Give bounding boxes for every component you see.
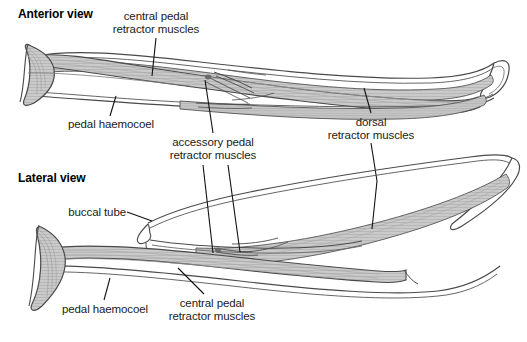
leader-accessory-pedal-to-lateral-b [228, 165, 240, 252]
label-central-pedal-retractor-top-line2: retractor muscles [96, 23, 216, 37]
lateral-view-label: Lateral view [18, 172, 86, 186]
anatomical-figure: Anterior view central pedal retractor mu… [0, 0, 527, 342]
anterior-view-label: Anterior view [18, 8, 93, 22]
label-central-pedal-retractor-bottom-line1: central pedal [156, 297, 268, 311]
leader-accessory-pedal-to-lateral-a [203, 165, 213, 253]
label-accessory-pedal-retractor-line1: accessory pedal [158, 136, 268, 150]
lateral-buccal-tube [137, 224, 150, 244]
leader-pedal-haemocoel-top [110, 96, 116, 116]
lateral-view-drawing [29, 155, 519, 310]
label-dorsal-retractor-line1: dorsal [316, 116, 426, 130]
label-buccal-tube: buccal tube [46, 206, 126, 220]
label-dorsal-retractor-line2: retractor muscles [316, 129, 426, 143]
leader-dorsal-to-lateral [372, 181, 377, 229]
label-central-pedal-retractor-top-line1: central pedal [96, 10, 216, 24]
label-accessory-pedal-retractor-line2: retractor muscles [158, 149, 268, 163]
leader-pedal-haemocoel-bottom [104, 278, 110, 300]
leader-buccal-tube [127, 212, 152, 221]
label-pedal-haemocoel-bottom: pedal haemocoel [50, 303, 160, 317]
label-central-pedal-retractor-bottom-line2: retractor muscles [156, 310, 268, 324]
label-pedal-haemocoel-top: pedal haemocoel [56, 118, 166, 132]
